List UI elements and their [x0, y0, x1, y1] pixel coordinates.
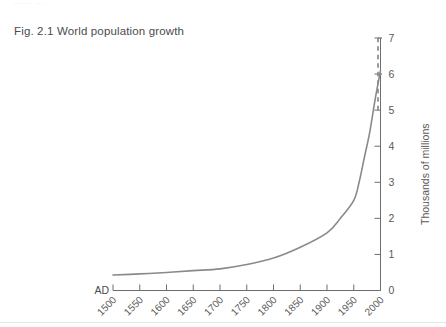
y-axis-title: Thousands of millions [419, 123, 431, 225]
era-label: AD [94, 284, 109, 296]
y-tick-label: 0 [389, 284, 395, 296]
x-tick-label: 1500 [95, 294, 119, 318]
y-tick-label: 7 [389, 32, 395, 44]
x-tick-label: 1900 [309, 294, 333, 318]
page-bottom-rule [0, 322, 446, 323]
figure-page: ······ ··· Fig. 2.1 World population gro… [0, 0, 446, 327]
y-tick-label: 6 [389, 68, 395, 80]
x-tick-label: 2000 [362, 294, 386, 318]
x-tick-label: 1950 [336, 294, 360, 318]
x-tick-label: 1850 [282, 294, 306, 318]
x-tick-label: 1600 [148, 294, 172, 318]
x-tick-label: 1550 [122, 294, 146, 318]
y-tick-label: 4 [389, 140, 395, 152]
y-tick-label: 1 [389, 248, 395, 260]
x-tick-label: 1750 [229, 294, 253, 318]
x-axis-ticks: 1500155016001650170017501800185019001950… [95, 285, 386, 318]
y-axis-ticks: 01234567 [375, 32, 395, 297]
chart-axes [113, 38, 381, 291]
x-tick-label: 1650 [175, 294, 199, 318]
y-tick-label: 2 [389, 212, 395, 224]
x-tick-label: 1700 [202, 294, 226, 318]
x-tick-label: 1800 [255, 294, 279, 318]
y-tick-label: 3 [389, 176, 395, 188]
population-curve [113, 70, 381, 275]
y-tick-label: 5 [389, 104, 395, 116]
population-growth-chart: 1500155016001650170017501800185019001950… [0, 0, 446, 327]
